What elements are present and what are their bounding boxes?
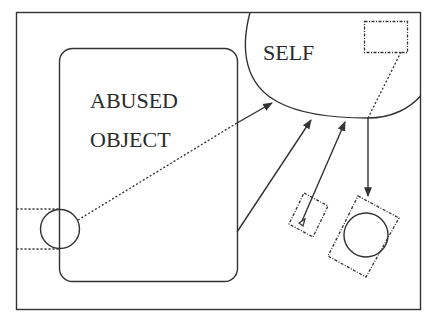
small-tilted-dotted-rect	[289, 193, 328, 237]
abused-object-label-line2: OBJECT	[90, 127, 171, 152]
self-shape	[245, 13, 420, 119]
small-rect-to-self-arrow	[302, 122, 345, 221]
circle-to-self-arrow	[237, 103, 272, 123]
abused-object-to-self-arrow	[237, 120, 311, 232]
abused-object-box	[60, 49, 238, 282]
outer-frame	[17, 13, 421, 310]
self-inner-dotted-rect	[365, 22, 408, 53]
projected-circle	[344, 213, 388, 257]
self-label: SELF	[263, 40, 314, 65]
self-inner-rect-connector	[368, 52, 401, 118]
diagram-canvas: ABUSED OBJECT SELF	[0, 0, 431, 325]
abused-object-label-line1: ABUSED	[90, 88, 178, 113]
